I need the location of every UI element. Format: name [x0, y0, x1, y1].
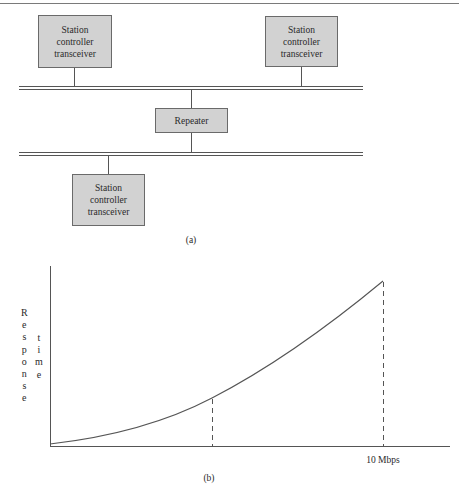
bus-segment-1 [19, 87, 363, 90]
y-axis-label-response: R e s p o n s e [21, 307, 28, 405]
diagram-lines [0, 0, 471, 498]
station-box-label: Station [54, 24, 96, 36]
bus-segment-2 [19, 153, 363, 156]
station-box-label: controller [88, 194, 130, 206]
station-box-label: controller [54, 36, 96, 48]
y-label-letter: p [22, 344, 27, 356]
y-label-letter: R [21, 307, 28, 319]
y-label-letter: s [22, 380, 26, 392]
y-axis-label-time: t i m e [35, 332, 43, 381]
y-label-letter: e [22, 392, 26, 404]
station-box-label: controller [281, 36, 323, 48]
station-box-3: Station controller transceiver [72, 174, 145, 226]
station-box-label: Station [281, 24, 323, 36]
station-box-2: Station controller transceiver [265, 16, 338, 67]
x-tick-10mbps: 10 Mbps [366, 455, 400, 465]
y-label-letter: t [38, 332, 41, 344]
caption-b: (b) [203, 473, 214, 483]
y-label-letter: m [35, 356, 43, 368]
station-box-label: transceiver [88, 206, 130, 218]
y-label-letter: o [22, 356, 27, 368]
station-box-label: transceiver [54, 48, 96, 60]
station-box-1: Station controller transceiver [38, 15, 112, 68]
station-box-label: Station [88, 182, 130, 194]
station-box-label: transceiver [281, 48, 323, 60]
y-label-letter: n [22, 368, 27, 380]
y-label-letter: e [22, 319, 26, 331]
caption-a: (a) [186, 235, 197, 245]
y-label-letter: i [38, 344, 41, 356]
response-curve [50, 281, 383, 444]
repeater-box: Repeater [155, 108, 228, 133]
repeater-label: Repeater [175, 115, 209, 127]
y-label-letter: e [37, 369, 41, 381]
y-label-letter: s [22, 331, 26, 343]
